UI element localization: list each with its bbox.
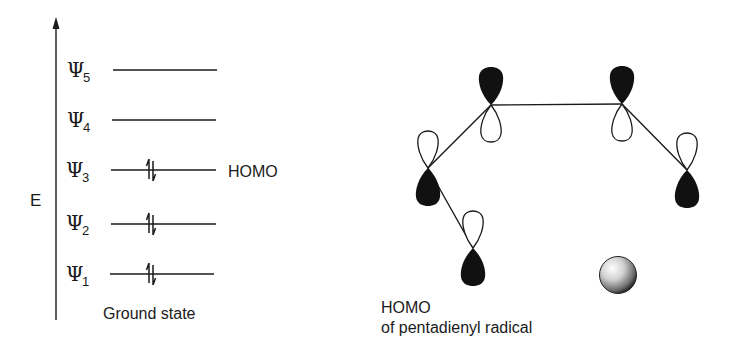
orbital-caption-line1: HOMO [381, 299, 431, 316]
level-symbol: Ψ [67, 108, 85, 132]
level-psi-2: Ψ 2 [66, 211, 216, 238]
figure-canvas: E Ψ 5 Ψ 4 Ψ 3 HOMO Ψ 2 [0, 0, 733, 360]
level-subscript: 3 [82, 170, 89, 185]
s-orbital-sphere-icon [600, 257, 637, 294]
p-orbital-c2 [416, 131, 440, 206]
level-subscript: 5 [83, 70, 90, 85]
level-psi-1: Ψ 1 [66, 262, 214, 289]
level-symbol: Ψ [67, 58, 85, 82]
orbital-caption-line2: of pentadienyl radical [381, 319, 532, 336]
energy-level-diagram: E Ψ 5 Ψ 4 Ψ 3 HOMO Ψ 2 [30, 17, 278, 322]
level-symbol: Ψ [66, 211, 84, 235]
p-orbital-c5 [675, 133, 699, 208]
level-psi-3: Ψ 3 [66, 158, 216, 185]
level-subscript: 1 [82, 274, 89, 289]
level-symbol: Ψ [66, 158, 84, 182]
energy-axis-label: E [30, 191, 41, 210]
level-subscript: 2 [82, 223, 89, 238]
ground-state-caption: Ground state [103, 305, 196, 322]
level-subscript: 4 [83, 120, 90, 135]
homo-orbital-diagram: HOMO of pentadienyl radical [381, 66, 699, 336]
p-orbital-c1 [461, 211, 485, 286]
level-psi-4: Ψ 4 [67, 108, 216, 135]
level-psi-5: Ψ 5 [67, 58, 217, 85]
homo-label: HOMO [228, 163, 278, 180]
energy-axis [53, 17, 60, 320]
level-symbol: Ψ [66, 262, 84, 286]
arrow-head-icon [53, 17, 60, 29]
